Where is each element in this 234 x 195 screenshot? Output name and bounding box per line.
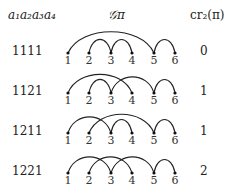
node-label: 4 [129, 54, 136, 67]
node-label: 1 [65, 134, 72, 147]
arc [111, 120, 132, 133]
arc-diagram-row: 123456 [65, 157, 179, 187]
arc-diagram-row: 123456 [65, 32, 179, 67]
arc [154, 120, 175, 133]
node-label: 3 [108, 54, 115, 67]
node-label: 1 [65, 54, 72, 67]
arc [154, 80, 175, 93]
node-label: 6 [172, 134, 179, 147]
arc [89, 39, 111, 53]
arc [154, 40, 175, 53]
arc-diagram-row: 123456 [65, 74, 179, 107]
node-label: 5 [151, 174, 158, 187]
node-label: 3 [108, 94, 115, 107]
arc-diagram-row: 123456 [65, 114, 179, 147]
node-label: 2 [86, 54, 93, 67]
node-label: 6 [172, 94, 179, 107]
node-label: 1 [65, 174, 72, 187]
node-label: 1 [65, 94, 72, 107]
node-label: 5 [151, 54, 158, 67]
arc [89, 114, 154, 133]
arc-diagrams: 123456123456123456123456 [0, 0, 234, 195]
arc [68, 32, 154, 53]
arc [111, 40, 132, 53]
node-label: 3 [108, 174, 115, 187]
arc [111, 77, 154, 93]
node-label: 6 [172, 54, 179, 67]
node-label: 2 [86, 94, 93, 107]
arc [89, 79, 111, 93]
node-label: 5 [151, 94, 158, 107]
node-label: 3 [108, 134, 115, 147]
node-label: 2 [86, 134, 93, 147]
node-label: 6 [172, 174, 179, 187]
node-label: 4 [129, 174, 136, 187]
node-label: 4 [129, 134, 136, 147]
arc [111, 157, 154, 173]
node-label: 5 [151, 134, 158, 147]
node-label: 4 [129, 94, 136, 107]
node-label: 2 [86, 174, 93, 187]
arc [154, 160, 175, 173]
arc [68, 74, 132, 93]
